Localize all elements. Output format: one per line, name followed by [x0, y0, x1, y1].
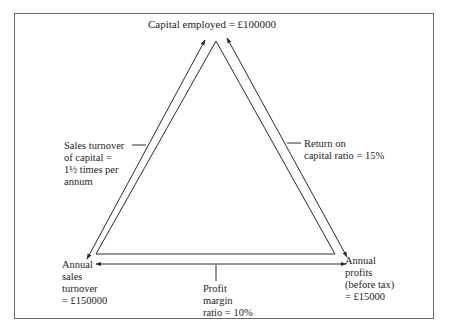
return-on-capital-label: Return on capital ratio = 15% — [304, 138, 384, 162]
sales-turnover-of-capital-label: Sales turnover of capital = 1½ times per… — [64, 140, 124, 188]
profit-margin-ratio-label: Profit margin ratio = 10% — [203, 283, 253, 319]
right-edge-line-2: capital ratio = 15% — [304, 150, 384, 162]
capital-employed-label: Capital employed = £100000 — [148, 18, 276, 30]
bottom-right-line-4: = £15000 — [345, 291, 394, 303]
left-edge-line-3: 1½ times per — [64, 164, 124, 176]
bottom-left-line-2: sales — [62, 271, 107, 283]
bottom-right-line-1: Annual — [345, 255, 394, 267]
left-edge-line-1: Sales turnover — [64, 140, 124, 152]
bottom-left-line-4: = £150000 — [62, 295, 107, 307]
central-triangle — [96, 41, 335, 254]
bottom-edge-line-2: margin — [203, 295, 253, 307]
left-edge-line-4: annum — [64, 176, 124, 188]
bottom-right-line-2: profits — [345, 267, 394, 279]
right-edge-line-1: Return on — [304, 138, 384, 150]
bottom-edge-line-1: Profit — [203, 283, 253, 295]
capital-employed-text: Capital employed = £100000 — [148, 18, 276, 30]
annual-sales-turnover-label: Annual sales turnover = £150000 — [62, 259, 107, 307]
bottom-edge-line-3: ratio = 10% — [203, 307, 253, 319]
bottom-left-line-1: Annual — [62, 259, 107, 271]
left-edge-line-2: of capital = — [64, 152, 124, 164]
bottom-right-line-3: (before tax) — [345, 279, 394, 291]
bottom-left-line-3: turnover — [62, 283, 107, 295]
annual-profits-label: Annual profits (before tax) = £15000 — [345, 255, 394, 303]
